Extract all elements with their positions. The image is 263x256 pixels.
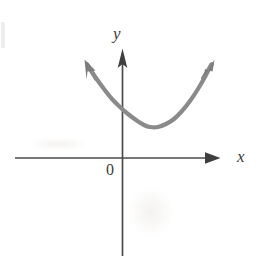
coordinate-plane-svg bbox=[0, 0, 263, 256]
x-axis-arrowhead-icon bbox=[205, 152, 221, 164]
curve-right-arrowhead-icon bbox=[203, 60, 215, 79]
curve-left-arrowhead-icon bbox=[85, 60, 97, 80]
x-axis-label: x bbox=[237, 148, 245, 165]
y-axis-group bbox=[118, 49, 128, 256]
figure-container: y x 0 bbox=[0, 0, 263, 256]
parabola-curve-group bbox=[85, 60, 215, 128]
origin-label: 0 bbox=[106, 162, 114, 178]
x-axis-group bbox=[15, 152, 221, 164]
parabola-curve bbox=[88, 65, 211, 127]
y-axis-label: y bbox=[113, 25, 121, 42]
